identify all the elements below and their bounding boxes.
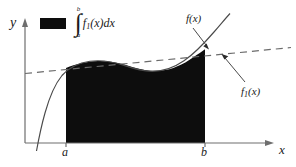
integral-lower-limit: a [77,32,81,40]
curve-annotation-fx-arg: (x) [189,12,201,24]
legend-swatch-shaded-area [40,18,66,29]
legend: b ∫ a f1(x)dx [40,4,115,42]
line-annotation-f1x: f1(x) [241,86,260,99]
curve-annotation-fx: f(x) [186,13,201,24]
integral-symbol: ∫ [75,14,82,32]
y-axis-arrowhead [22,18,28,27]
integrand-expression: f1(x)dx [83,16,115,31]
integral-sign-group: b ∫ a [75,6,82,40]
legend-integral-formula: b ∫ a f1(x)dx [75,6,115,40]
line-annotation-f1x-arg: (x) [248,85,260,97]
x-axis-arrowhead [265,140,274,146]
tick-label-a: a [62,146,68,158]
x-axis-label: x [279,143,285,156]
leader-line-f1x [225,58,245,82]
leader-arrowhead-f1x [222,54,229,59]
dashed-line-f1 [25,48,291,74]
leader-line-fx [193,28,206,45]
leader-arrowhead-fx [203,44,209,50]
y-axis-label: y [10,16,16,30]
figure-container: b ∫ a f1(x)dx y x a b f(x) f1(x) [0,0,296,167]
tick-label-b: b [201,146,207,158]
integrand-variable-part: (x)dx [90,16,115,30]
